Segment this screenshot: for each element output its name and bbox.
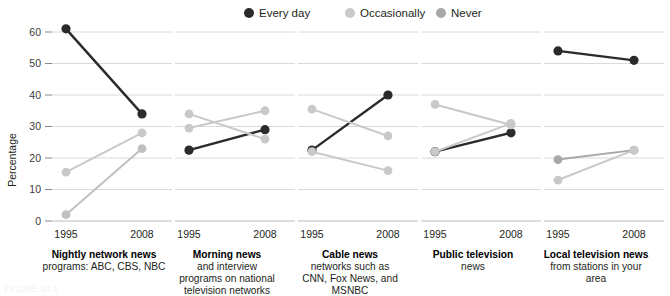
data-point [554, 155, 563, 164]
panel-caption: Nightly network newsprograms: ABC, CBS, … [43, 249, 166, 272]
y-axis: 0102030405060 [29, 26, 52, 227]
series-line [66, 29, 142, 114]
x-axis-tick-label: 1995 [546, 228, 570, 240]
legend-label-every_day: Every day [259, 7, 310, 19]
series-line [435, 123, 511, 151]
x-axis-tick-label: 2008 [622, 228, 646, 240]
data-point [261, 135, 270, 144]
data-point [507, 119, 516, 128]
panel-subtitle-line: CNN, Fox News, and [302, 273, 398, 284]
legend-swatch-never [436, 8, 446, 18]
x-axis: 19952008 [423, 228, 523, 240]
panel-series-group [553, 46, 638, 184]
panel-caption: Local television newsfrom stations in yo… [544, 249, 649, 284]
data-point [630, 146, 639, 155]
panel-caption: Morning newsand interviewprograms on nat… [179, 249, 275, 296]
data-point [184, 146, 193, 155]
data-point [431, 147, 440, 156]
x-axis: 19952008 [54, 228, 154, 240]
data-point [62, 168, 71, 177]
data-point [185, 110, 194, 119]
panel-gridlines [52, 32, 172, 221]
data-point [137, 109, 146, 118]
panel-series-group [307, 90, 392, 175]
series-line [558, 51, 634, 60]
data-point [261, 106, 270, 115]
data-point [384, 166, 393, 175]
data-point [260, 125, 269, 134]
panel-title: Nightly network news [52, 249, 157, 260]
data-point [506, 128, 515, 137]
panel-title: Cable news [322, 249, 378, 260]
y-axis-tick-label: 30 [29, 120, 41, 132]
panel-gridlines [421, 32, 541, 221]
data-point [308, 105, 317, 114]
panel-subtitle-line: area [586, 273, 607, 284]
series-line [66, 149, 142, 215]
x-axis-tick-label: 2008 [499, 228, 523, 240]
y-axis-tick-label: 40 [29, 89, 41, 101]
series-line [435, 133, 511, 152]
legend-label-never: Never [451, 7, 482, 19]
panel-title: Local television news [544, 249, 649, 260]
panel-subtitle-line: and interview [197, 261, 258, 272]
panel-subtitle-line: networks such as [311, 261, 390, 272]
series-line [312, 109, 388, 136]
x-axis-tick-label: 1995 [54, 228, 78, 240]
panel-title: Morning news [193, 249, 262, 260]
panel-title: Public television [433, 249, 513, 260]
series-line [66, 133, 142, 172]
chart-figure: 0102030405060Percentage19952008199520081… [0, 0, 670, 296]
y-axis-tick-label: 0 [35, 215, 41, 227]
x-axis-tick-label: 1995 [177, 228, 201, 240]
data-point [629, 56, 638, 65]
panel-subtitle-line: from stations in your [550, 261, 642, 272]
legend-swatch-occasionally [345, 8, 355, 18]
data-point [138, 128, 147, 137]
data-point [62, 210, 71, 219]
legend-label-occasionally: Occasionally [360, 7, 425, 19]
data-point [61, 24, 70, 33]
legend: Every dayOccasionallyNever [244, 7, 482, 19]
panel-series-group [184, 106, 269, 154]
y-axis-tick-label: 60 [29, 26, 41, 38]
panel-subtitle-line: programs on national [179, 273, 275, 284]
data-point [553, 46, 562, 55]
panel-subtitle-line: programs: ABC, CBS, NBC [43, 261, 166, 272]
x-axis-tick-label: 1995 [300, 228, 324, 240]
series-line [435, 104, 511, 124]
x-axis: 19952008 [546, 228, 646, 240]
x-axis-tick-label: 2008 [253, 228, 277, 240]
x-axis-tick-label: 2008 [130, 228, 154, 240]
x-axis-tick-label: 1995 [423, 228, 447, 240]
y-axis-tick-label: 50 [29, 57, 41, 69]
data-point [308, 147, 317, 156]
y-axis-tick-label: 20 [29, 152, 41, 164]
data-point [384, 132, 393, 141]
data-point [138, 144, 147, 153]
panel-caption: Public televisionnews [433, 249, 513, 272]
panel-subtitle-line: television networks [184, 285, 270, 296]
panel-caption: Cable newsnetworks such asCNN, Fox News,… [302, 249, 398, 296]
panel-series-group [430, 100, 515, 156]
x-axis: 19952008 [177, 228, 277, 240]
x-axis: 19952008 [300, 228, 400, 240]
panel-subtitle-line: news [461, 261, 485, 272]
data-point [431, 100, 440, 109]
y-axis-title: Percentage [6, 133, 18, 187]
data-point [185, 124, 194, 133]
multi-panel-line-chart: 0102030405060Percentage19952008199520081… [0, 0, 670, 296]
data-point [383, 90, 392, 99]
data-point [554, 176, 563, 185]
panel-gridlines [298, 32, 418, 221]
series-line [189, 130, 265, 150]
y-axis-tick-label: 10 [29, 183, 41, 195]
figure-footnote: FIGURE 10.1 [4, 284, 58, 294]
panel-subtitle-line: MSNBC [332, 285, 369, 296]
legend-swatch-every_day [244, 8, 254, 18]
x-axis-tick-label: 2008 [376, 228, 400, 240]
series-line [312, 152, 388, 171]
panel-gridlines [544, 32, 664, 221]
